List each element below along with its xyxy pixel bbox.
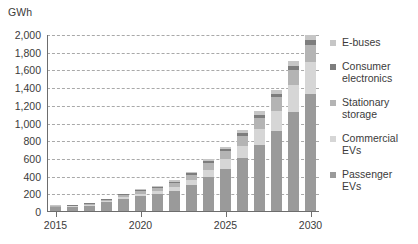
- legend-label: Consumer electronics: [342, 60, 392, 85]
- x-axis-tick-mark: [226, 212, 227, 217]
- x-axis-tick-mark: [56, 212, 57, 217]
- bar-segment: [203, 177, 214, 212]
- bar-segment: [288, 112, 299, 212]
- legend-swatch-icon: [330, 100, 336, 106]
- bar-segment: [254, 145, 265, 212]
- legend-swatch-icon: [330, 64, 336, 70]
- legend-swatch-icon: [330, 136, 336, 142]
- bar-segment: [237, 146, 248, 158]
- y-axis-tick-label: 2,000: [15, 29, 41, 41]
- bar-segment: [288, 70, 299, 86]
- y-axis-tick-label: 800: [23, 135, 41, 147]
- y-axis-tick-label: 400: [23, 171, 41, 183]
- x-axis-tick-mark: [311, 212, 312, 217]
- y-axis-tick-label: 1,600: [15, 64, 41, 76]
- bar-segment: [169, 191, 180, 212]
- bar-segment: [152, 194, 163, 212]
- bar-segment: [186, 185, 197, 212]
- legend-label: Passenger EVs: [342, 168, 392, 193]
- bar-segment: [271, 111, 282, 131]
- bar-segment: [237, 158, 248, 212]
- bar-segment: [237, 136, 248, 146]
- bar-segment: [305, 45, 316, 63]
- bar-2021: [152, 186, 163, 212]
- bar-segment: [288, 85, 299, 112]
- bar-2027: [254, 111, 265, 212]
- y-axis-tick-label: 600: [23, 153, 41, 165]
- y-axis-tick-label: 200: [23, 188, 41, 200]
- legend-label: Stationary storage: [342, 96, 389, 121]
- legend-item-consumer-electronics[interactable]: Consumer electronics: [330, 60, 414, 85]
- y-axis-tick-label: 1,800: [15, 47, 41, 59]
- legend-item-e-buses[interactable]: E-buses: [330, 36, 414, 49]
- bar-segment: [271, 97, 282, 111]
- bar-segment: [254, 129, 265, 145]
- legend-swatch-icon: [330, 40, 336, 46]
- bar-2022: [169, 180, 180, 212]
- y-axis-tick-label: 0: [35, 206, 41, 218]
- bar-segment: [271, 131, 282, 212]
- legend-item-commercial-evs[interactable]: Commercial EVs: [330, 132, 414, 157]
- bar-segment: [135, 196, 146, 212]
- bar-2029: [288, 61, 299, 212]
- bar-2020: [135, 189, 146, 212]
- plot-area: 02004006008001,0001,2001,4001,6001,8002,…: [47, 35, 319, 212]
- bar-2018: [101, 198, 112, 212]
- y-axis-tick-label: 1,200: [15, 100, 41, 112]
- x-axis-tick-label: 2025: [214, 219, 237, 231]
- legend-label: Commercial EVs: [342, 132, 398, 157]
- bar-2023: [186, 171, 197, 212]
- bar-segment: [203, 163, 214, 170]
- x-axis-line: [47, 211, 319, 212]
- bar-segment: [203, 170, 214, 177]
- x-axis-tick-mark: [141, 212, 142, 217]
- bar-2026: [237, 130, 248, 212]
- x-axis-tick-label: 2030: [299, 219, 322, 231]
- bar-segment: [220, 151, 231, 159]
- bar-chart: GWh 02004006008001,0001,2001,4001,6001,8…: [0, 0, 418, 244]
- bar-segment: [305, 94, 316, 212]
- bar-series-group: [47, 35, 319, 212]
- y-axis-tick-label: 1,400: [15, 82, 41, 94]
- legend-swatch-icon: [330, 172, 336, 178]
- bar-segment: [305, 62, 316, 94]
- legend-label: E-buses: [342, 36, 381, 49]
- legend-item-stationary-storage[interactable]: Stationary storage: [330, 96, 414, 121]
- y-axis-tick-label: 1,000: [15, 118, 41, 130]
- bar-segment: [118, 199, 129, 212]
- bar-2028: [271, 90, 282, 212]
- bar-segment: [220, 159, 231, 168]
- bar-2019: [118, 194, 129, 212]
- bar-segment: [254, 118, 265, 130]
- bar-2030: [305, 35, 316, 212]
- bar-2025: [220, 147, 231, 212]
- chart-legend: E-busesConsumer electronicsStationary st…: [330, 36, 414, 204]
- y-axis-unit-label: GWh: [8, 6, 32, 18]
- bar-segment: [220, 169, 231, 212]
- bar-2024: [203, 159, 214, 212]
- legend-item-passenger-evs[interactable]: Passenger EVs: [330, 168, 414, 193]
- x-axis-tick-label: 2015: [44, 219, 67, 231]
- x-axis-tick-label: 2020: [129, 219, 152, 231]
